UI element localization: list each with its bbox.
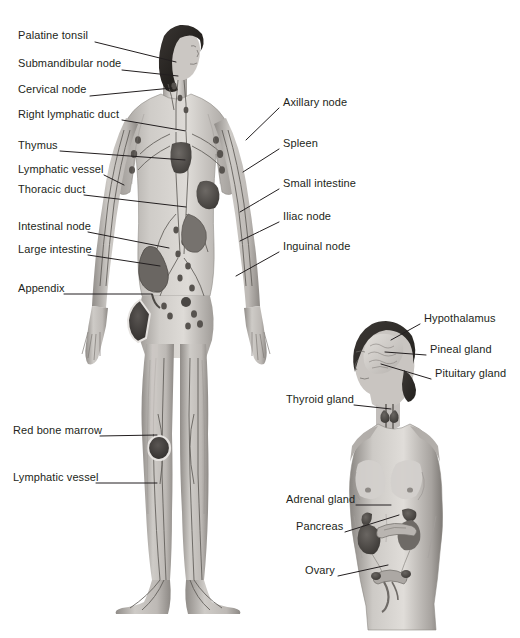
label-inguinal-node: Inguinal node	[283, 241, 350, 252]
label-iliac-node: Iliac node	[283, 211, 331, 222]
label-pineal-gland: Pineal gland	[430, 344, 492, 355]
ovary-right	[401, 570, 411, 578]
label-axillary-node: Axillary node	[283, 97, 347, 108]
label-ovary: Ovary	[305, 565, 335, 576]
label-pancreas: Pancreas	[296, 521, 343, 532]
diagram-canvas: Palatine tonsilSubmandibular nodeCervica…	[0, 0, 520, 638]
ovary-left	[371, 572, 381, 580]
label-cervical-node: Cervical node	[18, 84, 87, 95]
label-palatine-tonsil: Palatine tonsil	[18, 30, 88, 41]
lymphatic-system-illustration	[60, 14, 290, 614]
thymus-organ	[170, 142, 191, 174]
label-lymphatic-vessel: Lymphatic vessel	[18, 164, 104, 175]
label-spleen: Spleen	[283, 138, 318, 149]
endocrine-body-outline	[350, 321, 443, 630]
label-adrenal-gland: Adrenal gland	[286, 494, 355, 505]
label-large-intestine: Large intestine	[18, 244, 92, 255]
label-pituitary-gland: Pituitary gland	[435, 368, 506, 379]
label-right-lymphatic-duct: Right lymphatic duct	[18, 109, 119, 120]
label-hypothalamus: Hypothalamus	[424, 313, 496, 324]
label-thyroid-gland: Thyroid gland	[286, 394, 354, 405]
label-thymus: Thymus	[18, 140, 58, 151]
label-intestinal-node: Intestinal node	[18, 221, 91, 232]
label-lymphatic-vessel: Lymphatic vessel	[13, 472, 99, 483]
label-submandibular-node: Submandibular node	[18, 58, 121, 69]
label-small-intestine: Small intestine	[283, 178, 356, 189]
label-red-bone-marrow: Red bone marrow	[13, 425, 102, 436]
label-thoracic-duct: Thoracic duct	[18, 184, 85, 195]
label-appendix: Appendix	[18, 283, 65, 294]
red-bone-marrow-femur	[148, 436, 170, 460]
